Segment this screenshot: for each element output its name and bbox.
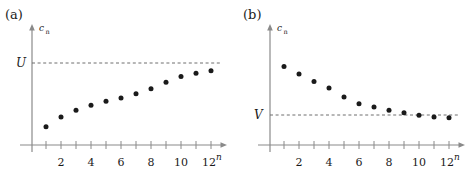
panel-a-x-axis-label: n	[216, 152, 222, 162]
data-point	[149, 86, 154, 91]
panel-b-plot: c n n V 2	[238, 0, 476, 173]
panel-b-tick-label-10: 10	[412, 156, 426, 169]
panel-a-y-axis-label: c	[39, 23, 44, 33]
panel-b-tick-label-4: 4	[326, 156, 333, 169]
data-point	[447, 115, 452, 120]
data-point	[402, 110, 407, 115]
panel-b-tick-label-12: 12	[440, 156, 454, 169]
panel-b-tick-label-6: 6	[356, 156, 363, 169]
data-point	[432, 114, 437, 119]
data-point	[297, 71, 302, 76]
panel-a-y-axis-label-subscript: n	[46, 28, 50, 36]
panel-a: (a) c n n U	[0, 0, 238, 173]
data-point	[312, 79, 317, 84]
panel-b-limit-label-V: V	[254, 108, 264, 122]
data-point	[134, 91, 139, 96]
panel-b: (b) c n n V	[238, 0, 476, 173]
data-point	[342, 95, 347, 100]
data-point	[59, 114, 64, 119]
panel-b-x-axis-arrowhead	[459, 142, 466, 147]
panel-a-data-points	[44, 68, 214, 129]
panel-a-tick-label-12: 12	[202, 156, 216, 169]
panel-a-plot: c n n U 2	[0, 0, 238, 173]
data-point	[104, 99, 109, 104]
data-point	[194, 71, 199, 76]
data-point	[282, 64, 287, 69]
panel-b-tick-label-8: 8	[386, 156, 393, 169]
data-point	[327, 86, 332, 91]
data-point	[164, 80, 169, 85]
panel-b-y-axis-label: c	[277, 23, 282, 33]
panel-a-tick-label-4: 4	[88, 156, 95, 169]
figure-two-panel-sequence-plots: (a) c n n U	[0, 0, 476, 173]
data-point	[89, 103, 94, 108]
data-point	[357, 101, 362, 106]
panel-b-y-axis-label-subscript: n	[284, 28, 288, 36]
panel-a-limit-label-U: U	[16, 56, 27, 70]
data-point	[44, 124, 49, 129]
panel-b-x-axis-label: n	[454, 152, 460, 162]
panel-a-tick-label-10: 10	[174, 156, 188, 169]
panel-a-tick-label-6: 6	[118, 156, 125, 169]
data-point	[74, 108, 79, 113]
data-point	[179, 74, 184, 79]
panel-a-tick-label-8: 8	[148, 156, 155, 169]
panel-a-tick-label-2: 2	[58, 156, 65, 169]
panel-a-y-axis-arrowhead	[29, 24, 35, 31]
panel-a-x-axis-arrowhead	[221, 142, 228, 147]
data-point	[372, 105, 377, 110]
panel-b-data-points	[282, 64, 452, 120]
data-point	[417, 113, 422, 118]
data-point	[387, 108, 392, 113]
panel-b-y-axis-arrowhead	[267, 24, 273, 31]
data-point	[119, 95, 124, 100]
panel-b-tick-label-2: 2	[296, 156, 303, 169]
data-point	[209, 68, 214, 73]
